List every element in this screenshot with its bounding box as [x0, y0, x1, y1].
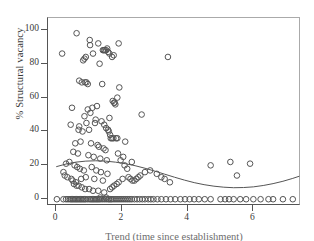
data-point: [95, 41, 101, 47]
data-point: [82, 113, 88, 119]
data-point: [88, 141, 94, 147]
data-point: [61, 169, 67, 175]
y-axis-tick-label: 0: [9, 192, 39, 202]
data-point: [208, 163, 214, 169]
data-point: [97, 61, 103, 67]
data-point: [86, 152, 92, 158]
data-point: [167, 179, 173, 185]
x-axis-tick: [252, 205, 253, 211]
y-axis-tick-label: 80: [9, 57, 39, 67]
data-point: [237, 196, 243, 202]
data-point: [78, 139, 84, 145]
y-axis-tick: [41, 63, 47, 64]
data-point: [247, 161, 253, 167]
data-point: [129, 159, 135, 165]
y-axis-tick-label: 60: [9, 91, 39, 101]
data-point: [202, 196, 208, 202]
data-point: [142, 169, 148, 175]
y-axis-tick: [41, 29, 47, 30]
data-point: [90, 51, 96, 57]
data-point: [234, 173, 240, 179]
data-point: [100, 178, 106, 184]
data-point: [86, 127, 92, 133]
data-point: [115, 151, 121, 157]
x-axis-tick: [187, 205, 188, 211]
data-point: [70, 178, 76, 184]
x-axis-tick-label: 6: [240, 212, 264, 222]
data-point: [72, 141, 78, 147]
y-axis-tick-label: 40: [9, 124, 39, 134]
data-point: [68, 122, 74, 128]
data-point: [290, 196, 296, 202]
y-axis-tick-label: 20: [9, 158, 39, 168]
x-axis-tick-label: 2: [109, 212, 133, 222]
data-point: [92, 120, 98, 126]
data-point: [228, 159, 234, 165]
data-point: [92, 176, 98, 182]
data-point: [91, 154, 97, 160]
data-point: [105, 171, 111, 177]
data-point: [116, 41, 122, 47]
y-axis-tick: [41, 97, 47, 98]
data-point: [208, 196, 214, 202]
x-axis-tick: [121, 205, 122, 211]
data-point: [122, 139, 128, 145]
x-axis-tick-label: 4: [175, 212, 199, 222]
data-point: [54, 196, 60, 202]
scatter-plot-figure: % Structural vacancy Trend (time since e…: [0, 0, 314, 241]
data-point: [139, 112, 145, 118]
y-axis-tick: [41, 164, 47, 165]
plot-area: [47, 17, 300, 205]
y-axis-tick: [41, 198, 47, 199]
data-point: [107, 115, 113, 121]
data-point: [59, 51, 65, 57]
plot-canvas: [48, 18, 301, 206]
y-axis-tick: [41, 130, 47, 131]
x-axis-tick-label: 0: [43, 212, 67, 222]
data-point: [251, 196, 257, 202]
data-point: [99, 81, 105, 87]
data-point: [120, 176, 126, 182]
data-point: [165, 54, 171, 60]
data-point: [74, 30, 80, 36]
x-axis-tick: [55, 205, 56, 211]
data-point: [104, 157, 110, 163]
data-point: [258, 196, 264, 202]
data-point: [280, 196, 286, 202]
data-point: [243, 196, 249, 202]
data-point: [84, 120, 90, 126]
data-point: [69, 105, 75, 111]
data-point: [117, 85, 123, 91]
data-point: [82, 56, 88, 62]
x-axis-title: Trend (time since establishment): [47, 231, 301, 241]
y-axis-tick-label: 100: [9, 23, 39, 33]
